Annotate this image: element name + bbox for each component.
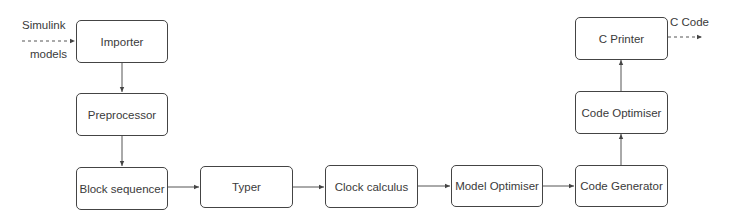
- node-typer: Typer: [200, 166, 293, 208]
- node-label: Typer: [232, 181, 261, 193]
- node-label: C Printer: [599, 33, 644, 45]
- node-label: Importer: [101, 36, 144, 48]
- node-code-optimiser: Code Optimiser: [575, 91, 668, 134]
- node-label: Preprocessor: [88, 109, 156, 121]
- node-label: Clock calculus: [335, 181, 409, 193]
- input-label-top: Simulink: [22, 19, 65, 31]
- node-label: Code Optimiser: [582, 107, 662, 119]
- node-label: Model Optimiser: [455, 180, 539, 192]
- output-label: C Code: [670, 16, 709, 28]
- node-label: Block sequencer: [79, 183, 164, 195]
- input-label-bottom: models: [30, 48, 67, 60]
- node-c-printer: C Printer: [575, 17, 668, 60]
- node-block-sequencer: Block sequencer: [76, 167, 168, 210]
- node-preprocessor: Preprocessor: [76, 93, 168, 136]
- node-importer: Importer: [76, 20, 168, 63]
- node-code-generator: Code Generator: [575, 165, 668, 207]
- node-model-optimiser: Model Optimiser: [451, 165, 543, 207]
- node-clock-calculus: Clock calculus: [325, 165, 418, 208]
- node-label: Code Generator: [580, 180, 662, 192]
